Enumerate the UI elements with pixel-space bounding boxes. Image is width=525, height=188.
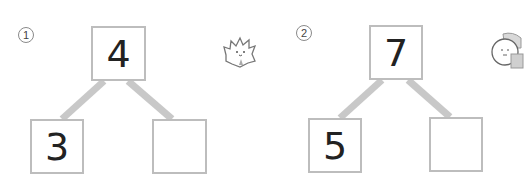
whole-number-box: 4 xyxy=(91,26,146,81)
round-face-character-icon xyxy=(489,30,525,70)
part-left-box: 5 xyxy=(308,118,362,173)
whole-number-box: 7 xyxy=(369,25,423,80)
part-right-answer-box[interactable] xyxy=(429,117,483,172)
part-right-answer-box[interactable] xyxy=(152,119,207,174)
part-left-box: 3 xyxy=(30,119,84,174)
problem-2: 2 7 5 xyxy=(260,0,523,188)
spiky-hair-character-icon xyxy=(220,33,260,73)
problem-1: 1 4 3 xyxy=(0,0,260,188)
